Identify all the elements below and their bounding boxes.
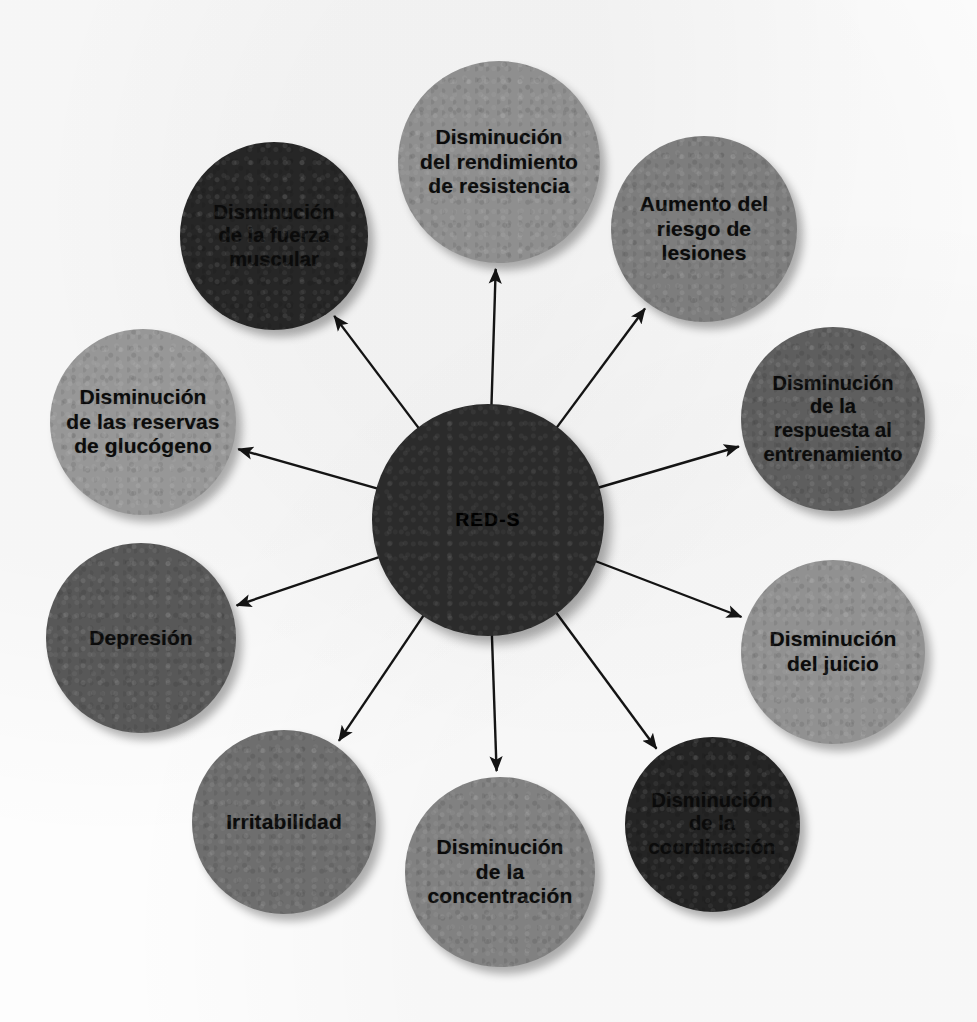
hub-node-red-s[interactable]: RED-S (372, 404, 604, 636)
node-label: Disminuciónde larespuesta alentrenamient… (753, 372, 912, 466)
edge-hub-to-coordinacion (554, 610, 656, 749)
node-label: Irritabilidad (216, 810, 352, 835)
node-label: Disminuciónde laconcentración (418, 835, 583, 909)
node-coordinacion[interactable]: Disminuciónde lacoordinación (625, 737, 800, 912)
hub-label: RED-S (455, 509, 520, 531)
edge-hub-to-concentracion (492, 632, 497, 771)
node-label: Depresión (79, 626, 203, 651)
node-label: Disminuciónde las reservasde glucógeno (56, 385, 229, 459)
edge-hub-to-reservas-glucogeno (238, 449, 380, 489)
node-rendimiento-resistencia[interactable]: Disminucióndel rendimientode resistencia (398, 61, 600, 263)
node-riesgo-lesiones[interactable]: Aumento delriesgo delesiones (611, 136, 797, 322)
node-label: Disminuciónde lacoordinación (639, 789, 786, 860)
diagram-canvas: RED-S Disminucióndel rendimientode resis… (0, 0, 977, 1022)
node-juicio[interactable]: Disminucióndel juicio (741, 560, 925, 744)
node-reservas-glucogeno[interactable]: Disminuciónde las reservasde glucógeno (50, 329, 236, 515)
node-label: Disminucióndel juicio (759, 627, 906, 677)
node-respuesta-entrenamiento[interactable]: Disminuciónde larespuesta alentrenamient… (741, 327, 925, 511)
edge-hub-to-riesgo-lesiones (555, 309, 645, 431)
node-label: Disminuciónde la fuerzamuscular (203, 201, 344, 272)
node-fuerza-muscular[interactable]: Disminuciónde la fuerzamuscular (180, 142, 368, 330)
node-depresion[interactable]: Depresión (46, 543, 236, 733)
node-label: Disminucióndel rendimientode resistencia (410, 125, 588, 199)
edge-hub-to-juicio (593, 560, 742, 617)
edge-hub-to-rendimiento-resistencia (491, 269, 495, 408)
node-irritabilidad[interactable]: Irritabilidad (192, 730, 376, 914)
edge-hub-to-depresion (237, 556, 382, 605)
edge-hub-to-irritabilidad (339, 613, 425, 741)
node-concentracion[interactable]: Disminuciónde laconcentración (405, 777, 595, 967)
node-label: Aumento delriesgo delesiones (630, 192, 778, 266)
edge-hub-to-fuerza-muscular (334, 316, 420, 431)
edge-hub-to-respuesta-entrenamiento (596, 447, 739, 489)
